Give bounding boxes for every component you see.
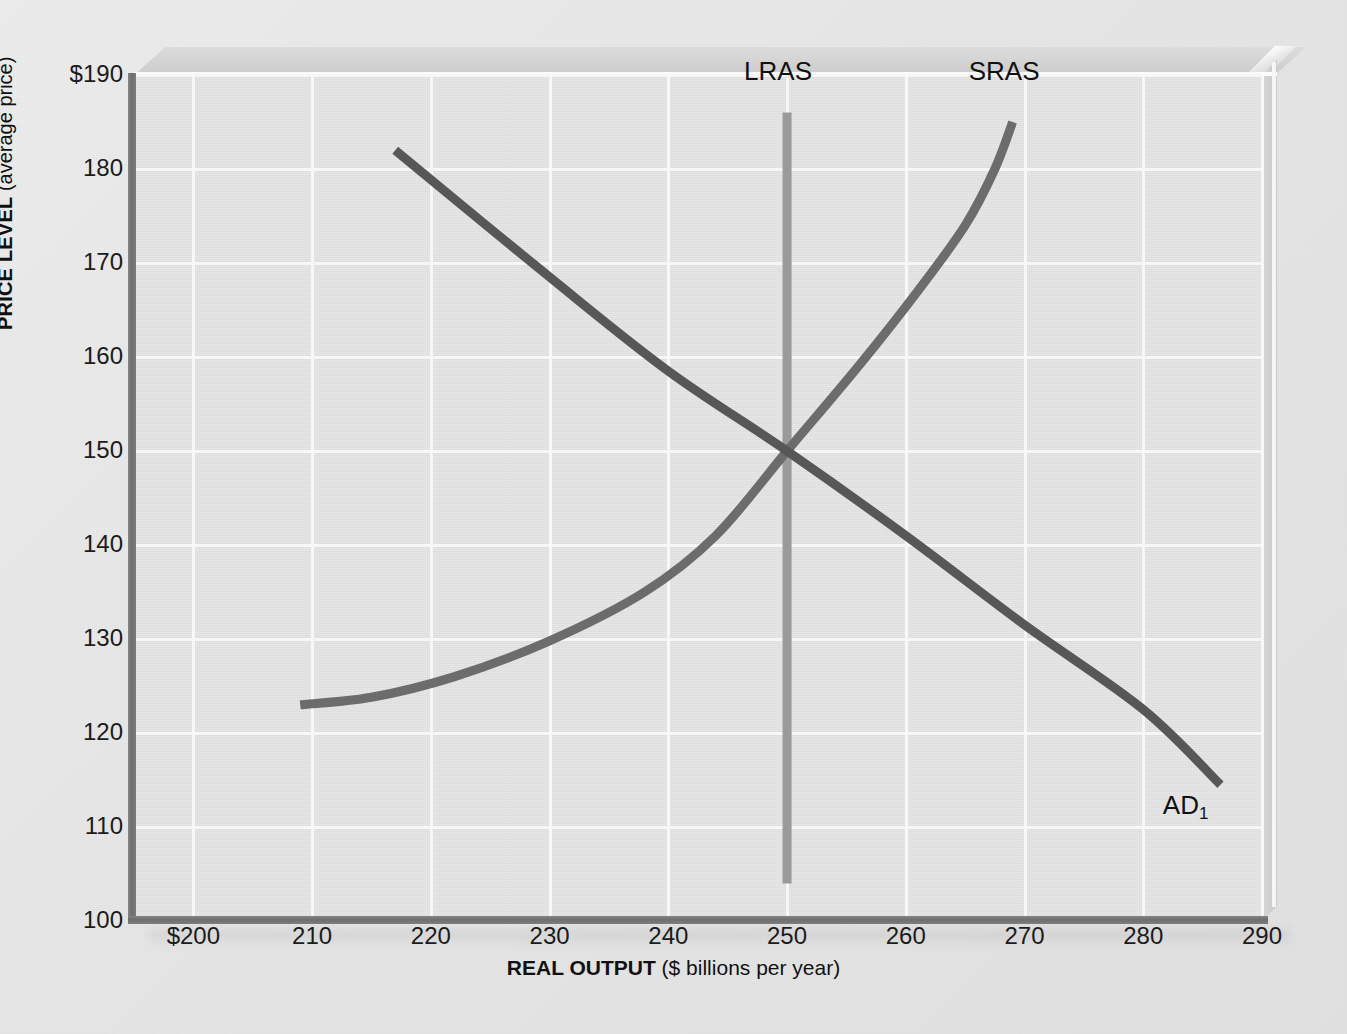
curve-label-lras: LRAS [744, 56, 812, 87]
ad-label-subscript: 1 [1199, 804, 1208, 823]
curve-sras [300, 122, 1012, 705]
curve-label-ad1: AD1 [1163, 790, 1209, 821]
ad-label-text: AD [1163, 790, 1199, 820]
as-ad-equilibrium-figure: $190180170160150140130120110100 $2002102… [0, 0, 1347, 1034]
curves-layer [0, 0, 1347, 1034]
sras-label-text: SRAS [969, 56, 1040, 86]
lras-label-text: LRAS [744, 56, 812, 86]
curve-ad1 [395, 150, 1220, 785]
curve-label-sras: SRAS [969, 56, 1040, 87]
